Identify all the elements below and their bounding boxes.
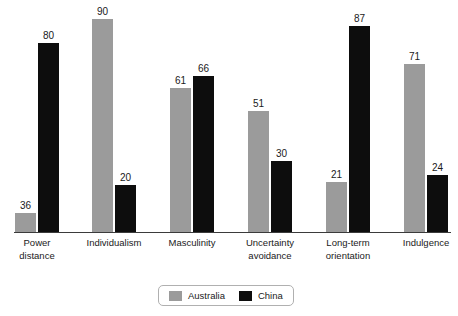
legend-swatch-icon — [239, 291, 252, 301]
legend-swatch-icon — [169, 291, 182, 301]
bar-rect — [15, 213, 36, 232]
bar-rect — [404, 64, 425, 232]
bar-rect — [38, 43, 59, 232]
bar-group: 90 20 — [91, 8, 137, 232]
x-axis-line — [14, 232, 451, 233]
bar-group: 21 87 — [325, 8, 371, 232]
bar-rect — [248, 111, 269, 232]
bar-value-label: 61 — [175, 75, 186, 86]
bar-group: 61 66 — [169, 8, 215, 232]
bar-value-label: 71 — [409, 51, 420, 62]
bar-rect — [271, 161, 292, 232]
x-tick-label: Masculinity — [157, 237, 227, 250]
bar-rect — [193, 76, 214, 232]
plot-area: 36 80 90 20 61 — [14, 8, 450, 232]
bar-rect — [427, 175, 448, 232]
x-tick-label: Long-term orientation — [311, 237, 385, 262]
bar-china[interactable]: 87 — [349, 26, 370, 232]
bar-australia[interactable]: 36 — [15, 213, 36, 232]
bar-rect — [326, 182, 347, 232]
bar-china[interactable]: 30 — [271, 161, 292, 232]
bar-australia[interactable]: 71 — [404, 64, 425, 232]
bar-chart: 36 80 90 20 61 — [0, 0, 458, 316]
bar-china[interactable]: 80 — [38, 43, 59, 232]
bar-china[interactable]: 20 — [115, 185, 136, 232]
bar-rect — [349, 26, 370, 232]
x-tick-label: Power distance — [5, 237, 69, 262]
bar-value-label: 24 — [432, 162, 443, 173]
x-tick-label: Uncertainty avoidance — [233, 237, 307, 262]
bar-australia[interactable]: 61 — [170, 88, 191, 232]
bar-group: 36 80 — [14, 8, 60, 232]
bar-rect — [115, 185, 136, 232]
bar-australia[interactable]: 51 — [248, 111, 269, 232]
bar-value-label: 80 — [43, 30, 54, 41]
bar-rect — [92, 19, 113, 232]
x-tick-label: Indulgence — [391, 237, 458, 250]
bar-australia[interactable]: 90 — [92, 19, 113, 232]
legend-item-china[interactable]: China — [239, 290, 283, 301]
bar-china[interactable]: 24 — [427, 175, 448, 232]
bar-value-label: 87 — [354, 13, 365, 24]
bar-china[interactable]: 66 — [193, 76, 214, 232]
legend-label: China — [258, 290, 283, 301]
legend-item-australia[interactable]: Australia — [169, 290, 225, 301]
x-axis-tick-labels: Power distance Individualism Masculinity… — [14, 237, 450, 273]
bar-value-label: 90 — [97, 6, 108, 17]
bar-rect — [170, 88, 191, 232]
bar-value-label: 20 — [120, 172, 131, 183]
x-tick-label: Individualism — [76, 237, 152, 250]
bar-group: 51 30 — [247, 8, 293, 232]
legend-label: Australia — [188, 290, 225, 301]
chart-legend: Australia China — [158, 285, 294, 306]
bar-value-label: 51 — [253, 98, 264, 109]
bar-value-label: 36 — [20, 200, 31, 211]
bar-value-label: 21 — [331, 169, 342, 180]
bar-value-label: 66 — [198, 63, 209, 74]
bar-group: 71 24 — [403, 8, 449, 232]
bar-value-label: 30 — [276, 148, 287, 159]
bar-australia[interactable]: 21 — [326, 182, 347, 232]
